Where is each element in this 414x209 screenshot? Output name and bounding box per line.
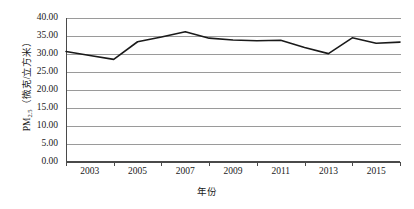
- y-tick-label: 10.00: [37, 121, 58, 131]
- x-tick-label: 2005: [128, 167, 147, 177]
- y-tick-label: 35.00: [37, 31, 58, 41]
- series-pm25-line: [66, 18, 400, 162]
- x-axis-tick: [257, 162, 258, 166]
- x-axis-title: 年份: [0, 184, 414, 198]
- x-axis-tick: [114, 162, 115, 166]
- x-tick-label: 2011: [271, 167, 290, 177]
- x-axis-tick: [209, 162, 210, 166]
- y-tick-label: 5.00: [41, 139, 58, 149]
- x-axis-tick: [400, 162, 401, 166]
- gridline-0-00: [67, 162, 401, 163]
- y-tick-label: 20.00: [37, 85, 58, 95]
- x-tick-label: 2003: [80, 167, 99, 177]
- y-tick-label: 0.00: [41, 157, 58, 167]
- y-axis-tick-labels: 40.0035.0030.0025.0020.0015.0010.005.000…: [0, 0, 62, 209]
- x-tick-label: 2007: [176, 167, 195, 177]
- x-axis-tick: [66, 162, 67, 166]
- x-axis-tick: [305, 162, 306, 166]
- x-axis-tick: [352, 162, 353, 166]
- x-axis-tick: [161, 162, 162, 166]
- y-tick-label: 30.00: [37, 49, 58, 59]
- pm25-line-chart: PM2.5（微克/立方米） 40.0035.0030.0025.0020.001…: [0, 0, 414, 209]
- y-tick-label: 40.00: [37, 13, 58, 23]
- series-polyline: [66, 32, 400, 60]
- y-tick-label: 15.00: [37, 103, 58, 113]
- x-tick-label: 2009: [224, 167, 243, 177]
- x-tick-label: 2015: [367, 167, 386, 177]
- y-tick-label: 25.00: [37, 67, 58, 77]
- x-tick-label: 2013: [319, 167, 338, 177]
